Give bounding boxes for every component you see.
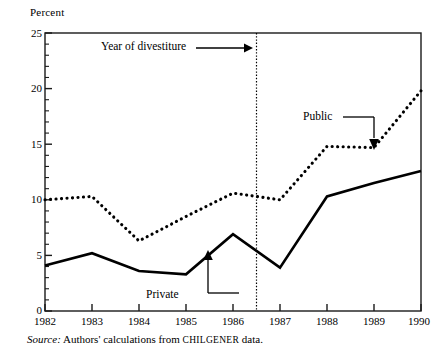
divestiture-arrow — [196, 44, 253, 53]
source-prefix: Source: — [27, 333, 61, 345]
plot-area — [0, 0, 437, 354]
public-arrow — [343, 117, 379, 150]
series-line-public — [45, 91, 421, 241]
source-smallcaps: CHILGENER — [183, 335, 240, 345]
source-text-before: Authors' calculations from — [61, 333, 183, 345]
x-axis-ticks — [45, 304, 421, 311]
chart-figure: Percent 25 20 15 10 5 0 1982 1983 1984 1… — [0, 0, 437, 354]
source-text-after: data. — [239, 333, 263, 345]
series-line-private — [45, 171, 421, 274]
y-axis-ticks — [45, 33, 52, 311]
source-note: Source: Authors' calculations from CHILG… — [27, 333, 263, 345]
private-arrow — [203, 250, 239, 293]
plot-frame — [45, 33, 421, 311]
